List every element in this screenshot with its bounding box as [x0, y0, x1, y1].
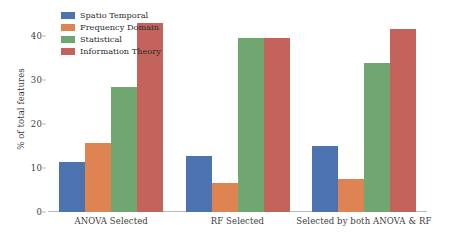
y-axis-tick-mark — [42, 80, 46, 81]
bar — [390, 29, 416, 212]
legend-swatch-icon — [61, 48, 75, 55]
y-axis-tick-mark — [42, 36, 46, 37]
legend: Spatio TemporalFrequency DomainStatistic… — [61, 10, 161, 57]
bar — [212, 183, 238, 212]
y-axis-label: % of total features — [16, 44, 26, 174]
legend-item: Spatio Temporal — [61, 10, 161, 21]
bar — [238, 38, 264, 212]
bar — [312, 146, 338, 212]
legend-item: Statistical — [61, 34, 161, 45]
x-axis-tick-label: Selected by both ANOVA & RF — [264, 216, 449, 226]
y-axis-tick-label: 40 — [31, 31, 42, 41]
y-axis-tick-label: 30 — [31, 75, 42, 85]
bar — [111, 87, 137, 212]
bar-chart: 010203040 % of total features ANOVA Sele… — [0, 0, 449, 232]
legend-item-label: Spatio Temporal — [80, 10, 148, 21]
y-axis-tick-label: 10 — [31, 163, 42, 173]
y-axis-tick-mark — [42, 124, 46, 125]
bar — [59, 162, 85, 212]
legend-swatch-icon — [61, 36, 75, 43]
bar — [186, 156, 212, 212]
y-axis-tick-label: 20 — [31, 119, 42, 129]
legend-swatch-icon — [61, 24, 75, 31]
legend-item: Information Theory — [61, 46, 161, 57]
bar — [264, 38, 290, 212]
bar-group — [186, 14, 290, 212]
bar — [364, 63, 390, 212]
legend-item-label: Frequency Domain — [80, 22, 159, 33]
y-axis-tick-mark — [42, 212, 46, 213]
legend-item-label: Statistical — [80, 34, 122, 45]
bar-group — [312, 14, 416, 212]
legend-item: Frequency Domain — [61, 22, 161, 33]
bar — [85, 143, 111, 212]
legend-item-label: Information Theory — [80, 46, 161, 57]
bar — [338, 179, 364, 212]
y-axis-tick-mark — [42, 168, 46, 169]
legend-swatch-icon — [61, 12, 75, 19]
